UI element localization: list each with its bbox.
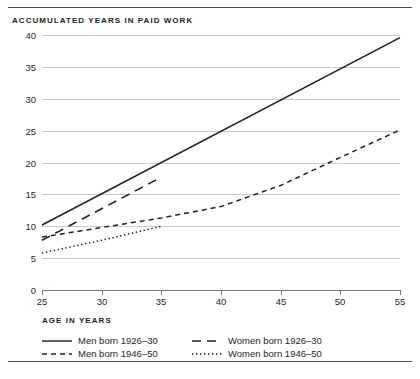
legend-swatch-dash (42, 349, 72, 359)
legend-swatch-dot (192, 349, 222, 359)
legend-row: Men born 1926–30 Women born 1926–30 (42, 334, 372, 347)
legend-row: Men born 1946–50 Women born 1946–50 (42, 347, 372, 360)
chart-legend: Men born 1926–30 Women born 1926–30 Men … (42, 334, 372, 360)
series-line (42, 130, 400, 237)
legend-label: Women born 1926–30 (228, 336, 322, 346)
legend-label: Men born 1926–30 (78, 336, 158, 346)
legend-label: Men born 1946–50 (78, 349, 158, 359)
series-line (42, 177, 161, 240)
x-axis-title: AGE IN YEARS (42, 316, 112, 325)
legend-item-men-1946: Men born 1946–50 (42, 349, 192, 359)
legend-item-women-1926: Women born 1926–30 (192, 336, 342, 346)
legend-label: Women born 1946–50 (228, 349, 322, 359)
bottom-rule (8, 361, 412, 362)
series-line (42, 38, 400, 225)
legend-swatch-long-dash (192, 336, 222, 346)
legend-item-men-1926: Men born 1926–30 (42, 336, 192, 346)
legend-item-women-1946: Women born 1946–50 (192, 349, 342, 359)
chart-figure: ACCUMULATED YEARS IN PAID WORK 40 35 30 … (0, 0, 420, 379)
legend-swatch-solid (42, 336, 72, 346)
